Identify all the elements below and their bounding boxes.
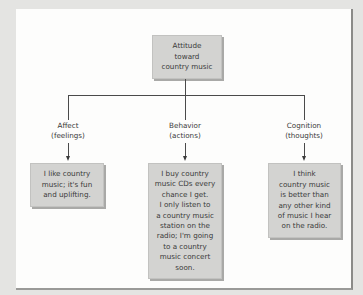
example-box-behavior: I buy country music CDs every chance I g… bbox=[148, 163, 222, 279]
example-box-cognition: I think country music is better than any… bbox=[268, 163, 341, 238]
arrow-cognition-shaft bbox=[304, 143, 305, 156]
arrow-behavior-shaft bbox=[185, 143, 186, 156]
arrow-down-icon bbox=[302, 156, 306, 161]
arrow-affect-shaft bbox=[68, 143, 69, 156]
example-box-affect: I like country music; it's fun and uplif… bbox=[30, 163, 104, 207]
example-text-affect: I like country music; it's fun and uplif… bbox=[42, 169, 92, 200]
example-text-behavior: I buy country music CDs every chance I g… bbox=[155, 169, 215, 273]
connector-behavior-top bbox=[185, 95, 186, 120]
connector-horizontal bbox=[68, 95, 305, 96]
component-label-behavior: Behavior (actions) bbox=[145, 121, 225, 141]
root-node-attitude: Attitude toward country music bbox=[152, 35, 222, 79]
connector-affect-top bbox=[68, 95, 69, 120]
component-label-affect: Affect (feelings) bbox=[28, 121, 108, 141]
arrow-down-icon bbox=[183, 156, 187, 161]
connector-cognition-top bbox=[304, 95, 305, 120]
component-label-cognition: Cognition (thoughts) bbox=[264, 121, 344, 141]
root-node-label: Attitude toward country music bbox=[161, 41, 212, 72]
arrow-down-icon bbox=[66, 156, 70, 161]
connector-root-down bbox=[185, 79, 186, 95]
example-text-cognition: I think country music is better than any… bbox=[278, 169, 332, 231]
